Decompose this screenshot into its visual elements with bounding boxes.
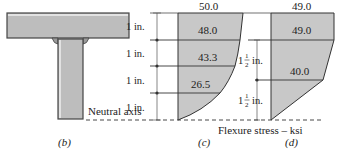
svg-text:1: 1 bbox=[238, 55, 243, 66]
weld-fillet-left bbox=[52, 38, 58, 44]
dim-c-2: 1 in. bbox=[126, 48, 145, 59]
value-d-2: 40.0 bbox=[290, 65, 310, 77]
svg-text:2: 2 bbox=[245, 61, 249, 69]
beam-web bbox=[58, 39, 83, 119]
caption-d: (d) bbox=[285, 136, 298, 149]
dim-d-2: 1 1 2 in. bbox=[238, 92, 263, 109]
value-c-2: 43.3 bbox=[198, 51, 218, 63]
caption-c: (c) bbox=[198, 136, 211, 149]
value-d-1: 49.0 bbox=[292, 24, 312, 36]
dim-d-1: 1 1 2 in. bbox=[238, 52, 263, 69]
svg-text:in.: in. bbox=[252, 55, 263, 66]
value-c-1: 48.0 bbox=[198, 24, 218, 36]
x-axis-label: Flexure stress – ksi bbox=[218, 124, 303, 136]
value-c-3: 26.5 bbox=[191, 78, 211, 90]
svg-text:1: 1 bbox=[238, 95, 243, 106]
svg-text:1: 1 bbox=[245, 52, 249, 60]
stress-diagram-c bbox=[150, 13, 243, 120]
caption-b: (b) bbox=[58, 136, 71, 149]
value-c-top: 50.0 bbox=[199, 0, 219, 12]
dim-c-3: 1 in. bbox=[126, 75, 145, 86]
svg-text:2: 2 bbox=[245, 101, 249, 109]
value-d-top: 49.0 bbox=[292, 0, 312, 12]
flexure-stress-figure: Neutral axis (b) 50.0 48.0 43.3 26.5 1 i… bbox=[0, 0, 339, 156]
t-beam-section bbox=[7, 13, 129, 119]
svg-text:1: 1 bbox=[245, 92, 249, 100]
weld-fillet-right bbox=[83, 38, 89, 44]
beam-flange bbox=[7, 13, 129, 38]
svg-text:in.: in. bbox=[252, 95, 263, 106]
dim-c-1: 1 in. bbox=[126, 21, 145, 32]
dim-c-4: 1 in. bbox=[126, 102, 145, 113]
